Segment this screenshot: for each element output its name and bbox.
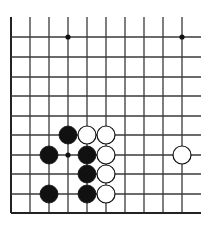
black-stone[interactable]: [78, 146, 96, 164]
white-stone[interactable]: [78, 126, 96, 144]
black-stone[interactable]: [78, 165, 96, 183]
white-stone[interactable]: [173, 146, 191, 164]
go-board[interactable]: [0, 0, 214, 227]
white-stone[interactable]: [97, 126, 115, 144]
star-point: [65, 34, 70, 39]
black-stone[interactable]: [59, 126, 77, 144]
white-stone[interactable]: [97, 185, 115, 203]
board-grid: [11, 17, 201, 213]
white-stone[interactable]: [97, 146, 115, 164]
stones-layer: [40, 126, 191, 203]
black-stone[interactable]: [40, 146, 58, 164]
star-point: [179, 34, 184, 39]
white-stone[interactable]: [97, 165, 115, 183]
black-stone[interactable]: [40, 185, 58, 203]
star-point: [65, 152, 70, 157]
black-stone[interactable]: [78, 185, 96, 203]
